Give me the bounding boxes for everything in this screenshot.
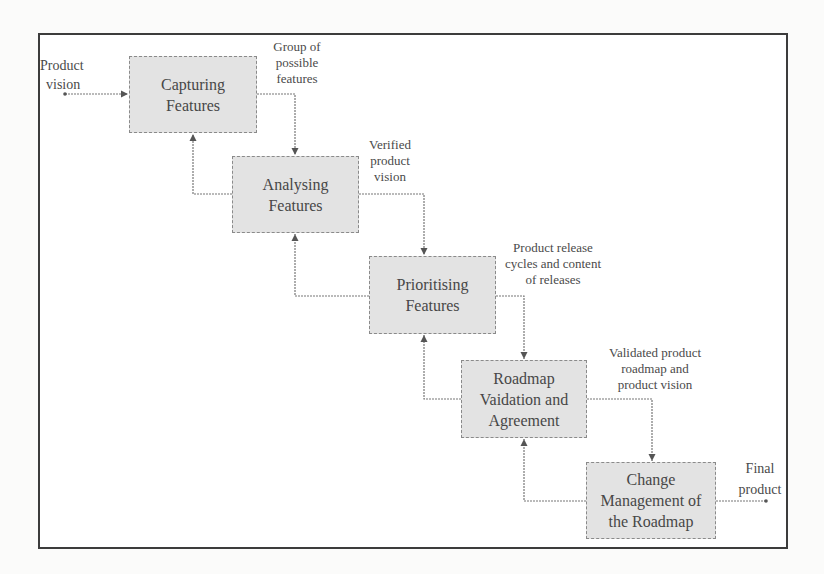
node-label-line: the Roadmap (601, 511, 702, 532)
node-label-line: Analysing (263, 174, 329, 195)
label-line: product (732, 479, 788, 500)
edge-label-product-release-cycles: Product release cycles and content of re… (486, 240, 620, 288)
edge-capturing-analysing (257, 94, 295, 155)
label-line: vision (362, 169, 418, 185)
node-label-line: Change (601, 469, 702, 490)
edge-analysing-prioritising (359, 194, 424, 255)
edge-label-validated-product-roadmap: Validated product roadmap and product vi… (590, 345, 720, 393)
node-label-line: Management of (601, 490, 702, 511)
label-line: product vision (590, 377, 720, 393)
label-line: Validated product (590, 345, 720, 361)
node-label-line: Features (396, 295, 468, 316)
node-label-line: Features (263, 195, 329, 216)
node-analysing-features: Analysing Features (232, 156, 359, 233)
node-prioritising-features: Prioritising Features (369, 256, 496, 334)
node-label-line: Features (161, 95, 225, 116)
label-line: Product release (486, 240, 620, 256)
label-line: Verified (362, 137, 418, 153)
edge-label-verified-product-vision: Verified product vision (362, 137, 418, 185)
node-change-management-roadmap: Change Management of the Roadmap (586, 462, 716, 539)
edge-label-group-of-possible-features: Group of possible features (264, 39, 330, 87)
label-line: possible (264, 55, 330, 71)
node-label-line: Agreement (480, 410, 568, 431)
label-line: Group of (264, 39, 330, 55)
label-line: vision (40, 75, 84, 94)
edge-label-final-product: Final product (732, 458, 788, 500)
edge-prioritising-roadmap (496, 296, 524, 359)
node-label-line: Vaidation and (480, 389, 568, 410)
edge-analysing-capturing (193, 134, 232, 194)
edge-roadmap-change (587, 399, 652, 461)
edge-prioritising-analysing (295, 234, 369, 296)
label-line: Final (732, 458, 788, 479)
label-line: cycles and content (486, 256, 620, 272)
node-label-line: Roadmap (480, 368, 568, 389)
edge-roadmap-prioritising (424, 335, 461, 399)
node-capturing-features: Capturing Features (129, 56, 257, 133)
label-line: of releases (486, 272, 620, 288)
edge-change-roadmap (524, 439, 586, 501)
label-line: features (264, 71, 330, 87)
node-label-line: Capturing (161, 74, 225, 95)
node-label-line: Prioritising (396, 274, 468, 295)
edge-label-product-vision: Product vision (40, 56, 84, 94)
label-line: Product (40, 56, 84, 75)
label-line: product (362, 153, 418, 169)
node-roadmap-validation-agreement: Roadmap Vaidation and Agreement (461, 360, 587, 438)
label-line: roadmap and (590, 361, 720, 377)
